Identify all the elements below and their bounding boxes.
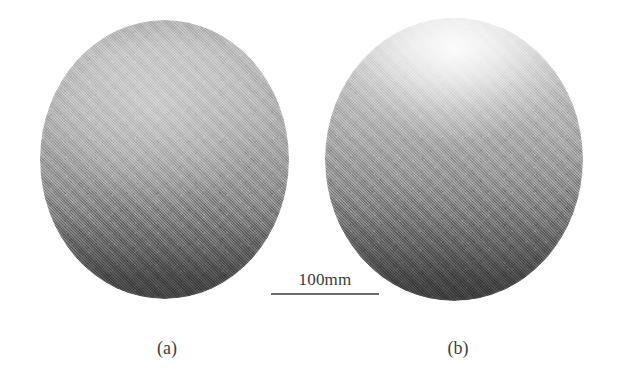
specimen-a-body (40, 20, 289, 299)
scale-bar-rule (271, 293, 379, 295)
specimen-sphere-a (40, 20, 289, 299)
specimen-sphere-b (325, 18, 583, 301)
panel-caption-b: (b) (418, 338, 498, 359)
scale-bar-label: 100mm (268, 270, 382, 290)
specimen-b-body (325, 18, 583, 301)
figure-canvas: 100mm (a) (b) (0, 0, 619, 385)
panel-caption-a: (a) (127, 338, 207, 359)
specimen-a-edge-fade (40, 20, 289, 299)
specimen-b-edge-fade (325, 18, 583, 301)
scale-bar: 100mm (268, 270, 382, 295)
